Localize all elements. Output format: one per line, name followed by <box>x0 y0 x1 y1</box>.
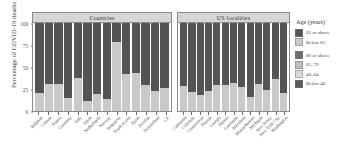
bar-segment-65-or-above <box>132 23 140 73</box>
legend-item[interactable]: 40–64 <box>295 70 359 79</box>
legend-swatch-icon <box>295 29 303 37</box>
bar-segment-below-65 <box>45 84 53 111</box>
bar-segment-65-or-above <box>141 23 149 85</box>
y-tick-label: 25 <box>23 87 28 93</box>
bar-segment-below-65 <box>180 86 187 111</box>
bar-segment-below-65 <box>54 84 62 111</box>
panel-us-localities-plot <box>177 23 290 112</box>
stacked-bar[interactable] <box>112 23 120 111</box>
bar-segment-below-65 <box>263 90 270 111</box>
legend-swatch-icon <box>295 61 303 69</box>
bar-segment-below-65 <box>122 74 130 111</box>
stacked-bar[interactable] <box>180 23 187 111</box>
bar-segment-65-or-above <box>93 23 101 94</box>
bar-segment-65-or-above <box>45 23 53 84</box>
bar-segment-below-65 <box>160 88 168 111</box>
x-tick-label: UK <box>162 115 170 123</box>
bar-segment-below-65 <box>83 101 91 111</box>
x-tick-label: Italy <box>73 115 82 124</box>
stacked-bar[interactable] <box>103 23 111 111</box>
bar-segment-below-65 <box>205 91 212 111</box>
bar-segment-below-65 <box>64 98 72 111</box>
stacked-bar[interactable] <box>160 23 168 111</box>
stacked-bar[interactable] <box>93 23 101 111</box>
stacked-bar[interactable] <box>141 23 149 111</box>
bar-segment-below-65 <box>103 99 111 111</box>
stacked-bar[interactable] <box>213 23 220 111</box>
bar-segment-65-or-above <box>247 23 254 97</box>
bar-segment-65-or-above <box>64 23 72 98</box>
panel-countries-strip: Countries <box>32 12 172 23</box>
bar-segment-below-65 <box>280 93 287 111</box>
legend-label: 80 or above <box>306 53 330 58</box>
legend-label: Below 40 <box>306 81 325 86</box>
stacked-bar[interactable] <box>272 23 279 111</box>
bar-segment-below-65 <box>141 85 149 111</box>
legend-item[interactable]: Below 65 <box>295 38 359 47</box>
stacked-bar[interactable] <box>188 23 195 111</box>
panel-countries-xlabels: BelgiumCanadaFranceGermanyItalyJapanNeth… <box>32 115 172 164</box>
stacked-bar[interactable] <box>54 23 62 111</box>
legend-group: 80 or above65–7940–64Below 40 <box>295 51 359 89</box>
legend-swatch-icon <box>295 38 303 46</box>
bar-segment-65-or-above <box>280 23 287 93</box>
stacked-bar[interactable] <box>151 23 159 111</box>
bar-segment-below-65 <box>151 91 159 111</box>
panel-us-localities-xlabels: CaliforniaColoradoConnecticutFloridaGeor… <box>177 115 290 164</box>
bar-segment-65-or-above <box>74 23 82 78</box>
stacked-bar[interactable] <box>83 23 91 111</box>
legend-item[interactable]: 80 or above <box>295 51 359 60</box>
stacked-bar[interactable] <box>64 23 72 111</box>
stacked-bar[interactable] <box>45 23 53 111</box>
bar-segment-below-65 <box>188 92 195 111</box>
bar-segment-65-or-above <box>151 23 159 91</box>
bar-segment-below-65 <box>272 79 279 111</box>
legend-title: Age (years) <box>295 18 359 25</box>
bar-segment-below-65 <box>197 95 204 111</box>
y-tick-label: 75 <box>23 43 28 49</box>
bar-segment-65-or-above <box>222 23 229 85</box>
stacked-bar[interactable] <box>263 23 270 111</box>
bar-segment-below-65 <box>230 83 237 111</box>
legend-item[interactable]: 65 or above <box>295 28 359 37</box>
legend-swatch-icon <box>295 51 303 59</box>
legend-item[interactable]: 65–79 <box>295 60 359 69</box>
stacked-bar[interactable] <box>35 23 43 111</box>
legend-label: 65–79 <box>306 62 319 67</box>
bar-segment-below-65 <box>213 85 220 111</box>
stacked-bar[interactable] <box>230 23 237 111</box>
y-axis-tick-labels: 1007550250 <box>16 24 30 112</box>
y-tick-label: 50 <box>23 65 28 71</box>
bar-segment-below-65 <box>132 73 140 111</box>
y-tick-label: 0 <box>25 109 28 115</box>
y-tick-label: 100 <box>20 21 28 27</box>
bar-segment-65-or-above <box>180 23 187 86</box>
stacked-bar[interactable] <box>280 23 287 111</box>
bar-segment-below-65 <box>112 42 120 111</box>
bar-segment-65-or-above <box>103 23 111 99</box>
bar-segment-below-65 <box>238 87 245 111</box>
stacked-bar[interactable] <box>74 23 82 111</box>
panel-us-localities-strip: US localities <box>177 12 290 23</box>
bar-segment-65-or-above <box>160 23 168 88</box>
stacked-bar[interactable] <box>255 23 262 111</box>
stacked-bar[interactable] <box>222 23 229 111</box>
stacked-bar[interactable] <box>205 23 212 111</box>
covid-deaths-age-chart: Percentage of COVID-19 deaths 1007550250… <box>0 0 360 164</box>
bar-segment-65-or-above <box>213 23 220 85</box>
bar-segment-below-65 <box>247 97 254 111</box>
stacked-bar[interactable] <box>132 23 140 111</box>
stacked-bar[interactable] <box>197 23 204 111</box>
bar-segment-below-65 <box>222 85 229 111</box>
stacked-bar[interactable] <box>247 23 254 111</box>
legend-label: 65 or above <box>306 30 330 35</box>
bar-segment-65-or-above <box>263 23 270 90</box>
stacked-bar[interactable] <box>238 23 245 111</box>
bar-segment-65-or-above <box>272 23 279 79</box>
bar-segment-below-65 <box>93 94 101 111</box>
stacked-bar[interactable] <box>122 23 130 111</box>
bar-segment-65-or-above <box>35 23 43 93</box>
legend-label: Below 65 <box>306 40 325 45</box>
legend-item[interactable]: Below 40 <box>295 79 359 88</box>
legend-label: 40–64 <box>306 72 319 77</box>
